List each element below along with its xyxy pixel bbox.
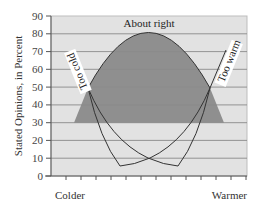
y-tick-20: 20: [32, 134, 44, 146]
x-label-warmer: Warmer: [212, 189, 247, 201]
label-about-right: About right: [123, 17, 174, 29]
y-tick-50: 50: [32, 81, 44, 93]
chart: 90 80 70 60 50 40 30 20 10 0 Stated Opin…: [0, 0, 260, 210]
x-label-colder: Colder: [55, 189, 85, 201]
y-axis-title: Stated Opinions, in Percent: [12, 36, 24, 156]
y-tick-30: 30: [32, 116, 44, 128]
x-axis-ticks: [66, 176, 246, 180]
y-axis-ticks: [46, 16, 51, 176]
y-tick-70: 70: [32, 45, 44, 57]
y-tick-0: 0: [38, 170, 44, 182]
y-tick-90: 90: [32, 10, 44, 22]
y-tick-40: 40: [32, 98, 44, 110]
y-tick-60: 60: [32, 63, 44, 75]
y-tick-labels: 90 80 70 60 50 40 30 20 10 0: [32, 10, 44, 182]
y-tick-80: 80: [32, 27, 44, 39]
y-tick-10: 10: [32, 152, 44, 164]
